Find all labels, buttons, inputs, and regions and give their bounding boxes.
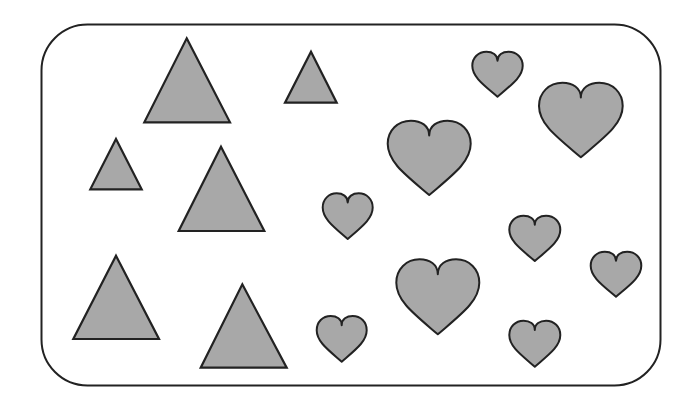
heart-group	[317, 52, 642, 367]
triangle-shape	[201, 284, 287, 367]
heart-shape	[317, 316, 367, 362]
heart-shape	[509, 216, 560, 261]
triangle-shape	[144, 38, 230, 122]
heart-shape	[509, 321, 560, 367]
shapes-canvas	[0, 0, 694, 403]
heart-shape	[323, 193, 373, 239]
triangle-shape	[285, 52, 337, 103]
shapes-illustration	[0, 0, 694, 403]
triangle-shape	[90, 139, 141, 189]
heart-shape	[388, 121, 471, 195]
heart-shape	[472, 52, 522, 97]
heart-shape	[591, 252, 642, 297]
triangle-group	[73, 38, 336, 367]
triangle-shape	[179, 147, 265, 231]
heart-shape	[539, 83, 623, 158]
triangle-shape	[73, 256, 159, 339]
heart-shape	[396, 259, 479, 334]
